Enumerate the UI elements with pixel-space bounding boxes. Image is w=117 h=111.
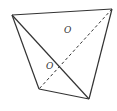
diagonal-dashed [39,9,112,89]
label-upper: O [64,25,72,35]
edge-top [12,9,112,15]
edge-right [89,9,112,99]
edge-left [12,15,39,89]
label-lower: O [46,61,54,71]
diagram-canvas: O O [0,0,117,111]
diagonal-solid [12,15,89,99]
